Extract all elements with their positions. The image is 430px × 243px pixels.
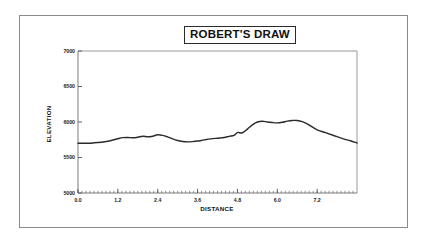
x-axis-title: DISTANCE (200, 205, 234, 212)
plot-area: 50005500600065007000 0.01.22.43.64.86.07… (0, 0, 430, 243)
y-tick-label: 5500 (63, 154, 75, 160)
chart-figure: ROBERT'S DRAW 50005500600065007000 0.01.… (0, 0, 430, 243)
y-tick-label: 5000 (63, 190, 75, 196)
x-tick-label: 2.4 (154, 197, 161, 203)
x-tick-label: 7.2 (314, 197, 321, 203)
x-tick-label: 6.0 (274, 197, 281, 203)
y-axis-title: ELEVATION (45, 105, 52, 142)
y-tick-label: 6500 (63, 83, 75, 89)
y-axis-tick-labels: 50005500600065007000 (63, 48, 75, 196)
x-tick-label: 0.0 (74, 197, 81, 203)
y-tick-label: 6000 (63, 119, 75, 125)
y-tick-label: 7000 (63, 48, 75, 54)
elevation-profile-line (78, 120, 357, 143)
x-tick-label: 1.2 (114, 197, 121, 203)
x-axis-tick-labels: 0.01.22.43.64.86.07.2 (74, 197, 320, 203)
x-tick-label: 3.6 (194, 197, 201, 203)
x-tick-label: 4.8 (234, 197, 241, 203)
y-axis-ticks (78, 51, 82, 193)
plot-frame (78, 51, 357, 193)
